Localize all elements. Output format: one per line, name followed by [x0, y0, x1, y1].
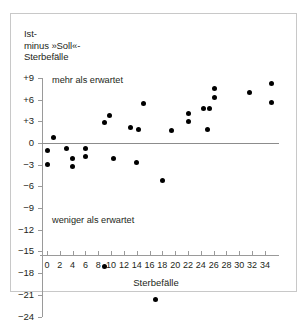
y-tick-label: −24: [12, 312, 34, 322]
y-tick: [38, 295, 42, 296]
x-axis-title: Sterbefälle: [76, 277, 236, 288]
data-point: [153, 297, 158, 302]
y-axis-title: Ist- minus »Soll«- Sterbefälle: [24, 28, 80, 63]
y-tick: [38, 317, 42, 318]
annotation-above: mehr als erwartet: [52, 75, 123, 85]
annotation-below: weniger als erwartet: [52, 215, 134, 225]
